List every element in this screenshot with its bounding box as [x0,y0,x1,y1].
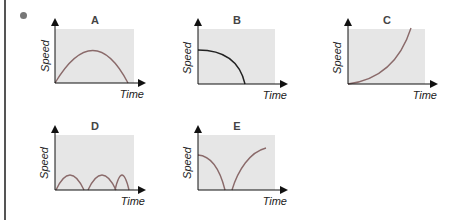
graph-c: C Time Speed [331,14,437,101]
speed-time-graphs: A Time Speed B Time Speed C Time Speed D… [0,0,456,220]
graph-c-ylabel: Speed [331,41,343,74]
graph-d: D Time Speed [38,120,145,207]
graph-a: A Time Speed [39,14,144,100]
graph-a-title: A [91,14,99,26]
graph-b-title: B [233,14,241,26]
graph-b-ylabel: Speed [181,41,193,74]
graph-e-xlabel: Time [263,195,287,207]
graph-b: B Time Speed [181,14,287,101]
graph-c-xlabel: Time [413,89,437,101]
graph-d-title: D [91,120,99,132]
graph-d-ylabel: Speed [38,146,50,179]
graph-e: E Time Speed [181,120,287,207]
graph-e-title: E [233,120,240,132]
graph-a-ylabel: Speed [39,39,51,72]
graph-b-xlabel: Time [263,89,287,101]
graph-d-xlabel: Time [121,195,145,207]
graph-c-title: C [383,14,391,26]
graph-e-ylabel: Speed [181,146,193,179]
graph-a-xlabel: Time [120,88,144,100]
